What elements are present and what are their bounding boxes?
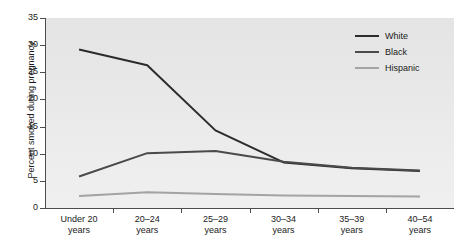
x-tick-label-line: 20–24 (114, 214, 180, 225)
x-tick-mark (181, 208, 182, 213)
x-tick-label-line: years (114, 225, 180, 236)
x-tick-label-line: 25–29 (182, 214, 248, 225)
x-tick-label: 40–54years (387, 214, 453, 236)
y-tick-label: 35 (10, 13, 38, 22)
legend-item-black[interactable]: Black (355, 44, 450, 60)
y-tick-mark (40, 208, 45, 209)
y-tick-label: 25 (10, 67, 38, 76)
legend-item-hispanic[interactable]: Hispanic (355, 60, 450, 76)
x-tick-label-line: years (387, 225, 453, 236)
y-tick-label: 30 (10, 40, 38, 49)
x-tick-label: 20–24years (114, 214, 180, 236)
x-tick-label: Under 20years (46, 214, 112, 236)
x-tick-label: 30–34years (251, 214, 317, 236)
x-tick-mark (250, 208, 251, 213)
series-line-hispanic (79, 192, 420, 196)
series-line-black (79, 151, 420, 177)
y-tick-label: 10 (10, 149, 38, 158)
x-tick-label-line: years (182, 225, 248, 236)
x-tick-mark (386, 208, 387, 213)
legend-label: Black (385, 47, 407, 57)
y-tick-label: 5 (10, 176, 38, 185)
y-tick-label: 20 (10, 94, 38, 103)
chart-figure: Percent smoked during pregnancy 05101520… (0, 0, 454, 250)
x-tick-mark (113, 208, 114, 213)
legend-label: White (385, 31, 408, 41)
x-tick-label-line: 30–34 (251, 214, 317, 225)
legend-swatch-white (355, 35, 379, 37)
legend-item-white[interactable]: White (355, 28, 450, 44)
legend-swatch-hispanic (355, 67, 379, 69)
legend-label: Hispanic (385, 63, 420, 73)
x-tick-label-line: 40–54 (387, 214, 453, 225)
x-tick-label-line: Under 20 (46, 214, 112, 225)
x-tick-label-line: years (46, 225, 112, 236)
x-tick-label-line: years (319, 225, 385, 236)
y-tick-label: 0 (10, 203, 38, 212)
legend: WhiteBlackHispanic (355, 28, 450, 76)
x-tick-label-line: 35–39 (319, 214, 385, 225)
legend-swatch-black (355, 51, 379, 53)
x-tick-label: 35–39years (319, 214, 385, 236)
x-tick-mark (318, 208, 319, 213)
y-tick-label: 15 (10, 122, 38, 131)
x-tick-label-line: years (251, 225, 317, 236)
x-tick-label: 25–29years (182, 214, 248, 236)
